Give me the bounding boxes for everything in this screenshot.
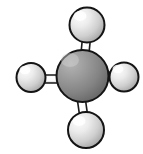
atom-top-highlight [74, 11, 87, 21]
atom-left-highlight [20, 66, 31, 74]
central-atom-highlight [61, 53, 79, 67]
atom-right-highlight [113, 65, 124, 73]
molecule-svg [0, 0, 143, 154]
atom-top [70, 8, 105, 43]
atom-left [17, 63, 46, 92]
molecule-diagram: Methane CH4 Ball-and-stick molecular mod… [0, 0, 143, 154]
atom-bottom-highlight [73, 116, 86, 126]
atom-right [110, 63, 139, 92]
central-atom [57, 50, 109, 102]
atom-bottom [68, 112, 104, 148]
